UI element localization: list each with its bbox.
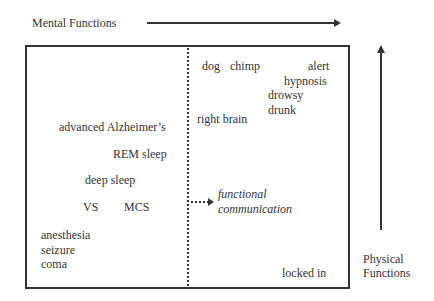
label-drunk: drunk bbox=[268, 103, 296, 117]
label-anesthesia: anesthesia bbox=[41, 228, 90, 242]
functional-communication-arrow-head-icon bbox=[208, 198, 214, 206]
label-hypnosis: hypnosis bbox=[284, 74, 327, 88]
functional-communication-arrow-line bbox=[191, 201, 209, 203]
y-axis-label-line2: Functions bbox=[363, 266, 410, 280]
x-axis-arrow-line bbox=[147, 22, 335, 24]
y-axis-label-line1: Physical bbox=[363, 252, 404, 266]
label-seizure: seizure bbox=[41, 243, 75, 257]
label-advanced-alzheimers: advanced Alzheimer’s bbox=[59, 120, 166, 134]
x-axis-arrow-head-icon bbox=[334, 19, 341, 27]
label-right-brain: right brain bbox=[197, 112, 247, 126]
label-drowsy: drowsy bbox=[268, 88, 303, 102]
label-alert: alert bbox=[308, 59, 329, 73]
communication-threshold-divider bbox=[187, 45, 189, 289]
label-chimp: chimp bbox=[230, 59, 260, 73]
label-mcs: MCS bbox=[124, 200, 149, 214]
label-coma: coma bbox=[41, 257, 67, 271]
label-functional: functional bbox=[218, 187, 267, 201]
y-axis-arrow-head-icon bbox=[377, 45, 385, 53]
label-deep-sleep: deep sleep bbox=[85, 173, 135, 187]
label-vs: VS bbox=[83, 200, 98, 214]
label-dog: dog bbox=[202, 59, 220, 73]
label-communication: communication bbox=[218, 202, 292, 216]
y-axis-arrow-line bbox=[380, 52, 382, 230]
label-locked-in: locked in bbox=[282, 266, 326, 280]
label-rem-sleep: REM sleep bbox=[113, 147, 167, 161]
x-axis-label: Mental Functions bbox=[32, 16, 116, 30]
